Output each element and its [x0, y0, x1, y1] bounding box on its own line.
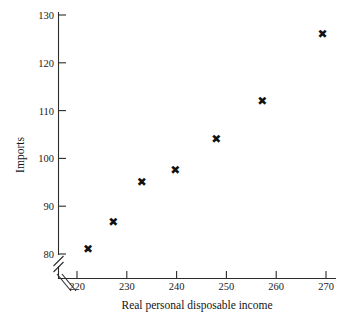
y-axis-tick-labels: 130 120 110 100 90 80: [38, 10, 54, 260]
x-axis-ticks: [77, 271, 326, 279]
y-axis-group: 130 120 110 100 90 80: [38, 10, 66, 279]
data-point-marker: ✖: [83, 242, 93, 256]
y-tick-label-110: 110: [39, 106, 54, 117]
x-tick-label-220: 220: [69, 281, 85, 292]
x-axis-tick-labels: 220 230 240 250 260 270: [69, 281, 334, 292]
data-point-marker: ✖: [211, 132, 221, 146]
y-axis-ticks: [59, 15, 67, 254]
data-point-marker: ✖: [317, 27, 327, 41]
x-tick-label-250: 250: [219, 281, 235, 292]
y-tick-label-90: 90: [44, 201, 55, 212]
data-points-group: ✖ ✖ ✖ ✖ ✖ ✖ ✖: [83, 27, 328, 257]
x-tick-label-230: 230: [119, 281, 135, 292]
data-point-marker: ✖: [257, 94, 267, 108]
data-point-marker: ✖: [170, 163, 180, 177]
chart-canvas: 130 120 110 100 90 80: [0, 0, 342, 321]
data-point-marker: ✖: [108, 215, 118, 229]
x-tick-label-240: 240: [169, 281, 185, 292]
scatter-plot-figure: 130 120 110 100 90 80: [0, 0, 342, 321]
data-point-marker: ✖: [137, 175, 147, 189]
y-tick-label-130: 130: [38, 10, 54, 21]
y-tick-label-80: 80: [44, 249, 55, 260]
x-tick-label-270: 270: [318, 281, 334, 292]
y-tick-label-100: 100: [38, 153, 54, 164]
y-axis-title: Imports: [14, 137, 27, 173]
y-tick-label-120: 120: [38, 58, 54, 69]
x-tick-label-260: 260: [268, 281, 284, 292]
x-axis-title: Real personal disposable income: [121, 299, 272, 312]
x-axis-group: 220 230 240 250 260 270: [57, 271, 336, 292]
